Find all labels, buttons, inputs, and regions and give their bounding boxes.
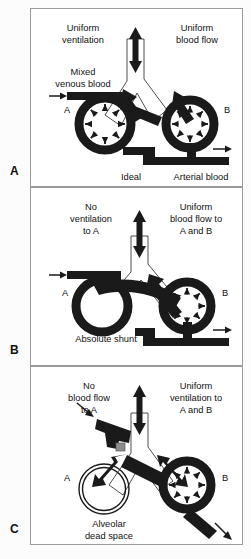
panel-a-caption: Ideal — [121, 172, 141, 182]
panel-b-caption: Absolute shunt — [75, 334, 137, 344]
panel-b-top-left-line2: ventilation — [70, 214, 112, 224]
panel-b-top-left-line3: to A — [83, 226, 100, 236]
panel-a-top-left-line2: ventilation — [62, 35, 104, 45]
panel-a-diagram: Uniform ventilation Uniform blood flow M… — [31, 9, 242, 186]
panel-b-diagram: No ventilation to A Uniform blood flow t… — [31, 188, 242, 365]
panel-a-top-left-line1: Uniform — [67, 23, 100, 33]
panel-c-alveolus-a-label: A — [64, 473, 71, 483]
figure-ventilation-perfusion: Uniform ventilation Uniform blood flow M… — [0, 0, 251, 559]
panel-c: No blood flow to A Uniform ventilation t… — [30, 366, 243, 545]
panel-b-top-right-line2: blood flow to — [170, 214, 222, 224]
panel-a: Uniform ventilation Uniform blood flow M… — [30, 8, 243, 187]
panel-c-top-right-line2: ventilation to — [170, 393, 222, 403]
panel-a-top-right-line2: blood flow — [176, 35, 218, 45]
gas-exchange-arrows-a — [85, 104, 125, 144]
gas-exchange-arrows-b — [172, 106, 208, 142]
panel-letter-c: C — [10, 522, 19, 536]
panel-a-alveolus-a-label: A — [64, 105, 71, 115]
inflow-arrow-a — [49, 93, 67, 100]
panel-b-alveolus-b-label: B — [222, 288, 228, 298]
panel-c-top-right-line3: A and B — [180, 405, 213, 415]
panel-a-inflow-line2: venous blood — [55, 79, 110, 89]
panel-c-top-left-line2: blood flow — [68, 393, 110, 403]
panel-c-diagram: No blood flow to A Uniform ventilation t… — [31, 367, 242, 544]
panel-a-inflow-line1: Mixed — [71, 67, 96, 77]
panel-a-top-right-line1: Uniform — [181, 23, 214, 33]
blocked-vessel-c — [95, 419, 131, 451]
outflow-arrow-b — [213, 327, 232, 334]
panel-a-outflow-label: Arterial blood — [174, 172, 229, 182]
outflow-arrow-a — [213, 146, 232, 153]
panel-b-top-right-line1: Uniform — [180, 202, 213, 212]
panel-b-top-left-line1: No — [85, 202, 97, 212]
panel-letter-a: A — [10, 164, 19, 178]
panel-c-top-right-line1: Uniform — [180, 381, 213, 391]
panel-letter-b: B — [10, 343, 19, 357]
panel-c-alveolus-b-label: B — [222, 473, 228, 483]
panel-b: No ventilation to A Uniform blood flow t… — [30, 187, 243, 366]
inflow-arrow-b — [49, 272, 67, 279]
panel-b-alveolus-a-label: A — [62, 288, 69, 298]
panel-c-top-left-line1: No — [83, 381, 95, 391]
panel-b-top-right-line3: A and B — [180, 226, 213, 236]
panel-c-caption-line1: Alveolar — [92, 519, 126, 529]
panel-c-caption-line2: dead space — [85, 531, 133, 541]
panel-a-alveolus-b-label: B — [224, 105, 230, 115]
outflow-arrow-c — [215, 523, 232, 540]
